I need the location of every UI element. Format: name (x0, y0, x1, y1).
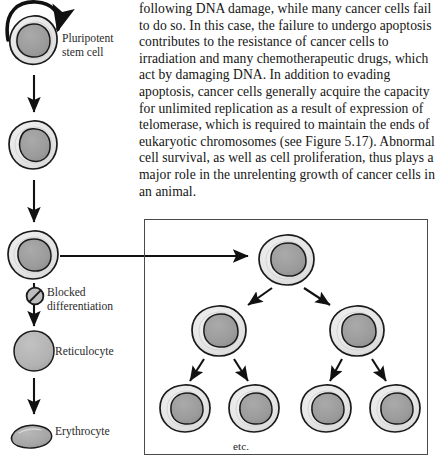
label-erythrocyte: Erythrocyte (55, 425, 110, 439)
clone-expansion-box (144, 219, 428, 455)
cell-erythrocyte (11, 425, 51, 448)
cell-reticulocyte (14, 331, 54, 371)
body-paragraph: following DNA damage, while many cancer … (139, 1, 438, 200)
label-reticulocyte: Reticulocyte (55, 345, 114, 359)
cell-pluripotent-stem (10, 16, 57, 64)
label-blocked-differentiation: Blocked differentiation (47, 286, 113, 313)
cell-erythroid-precursor (8, 231, 58, 279)
cell-progenitor (9, 121, 57, 169)
figure-page: following DNA damage, while many cancer … (0, 0, 438, 462)
body-text-column: following DNA damage, while many cancer … (139, 1, 438, 200)
no-entry-slash-icon (27, 288, 44, 305)
label-etc: etc. (233, 440, 249, 452)
label-pluripotent-stem-cell: Pluripotent stem cell (62, 32, 114, 59)
self-renewal-loop-arrow-icon (7, 2, 59, 40)
